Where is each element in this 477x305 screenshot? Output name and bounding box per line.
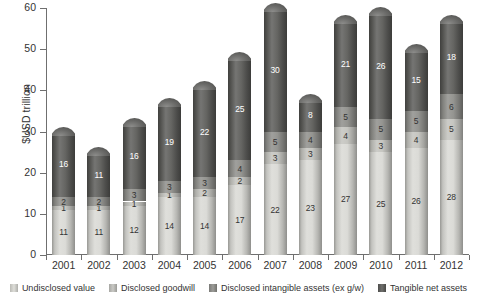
bar-segment: 25	[228, 57, 251, 160]
bar-2008: 23348	[299, 99, 322, 255]
bar-segment: 16	[52, 132, 75, 198]
bar-segment: 8	[299, 99, 322, 132]
bar-segment-fill	[123, 206, 146, 255]
bar-segment: 5	[369, 119, 392, 140]
bar-segment-fill	[158, 181, 181, 193]
bar-segment-fill	[440, 20, 463, 94]
bar-segment-fill	[334, 20, 357, 106]
bar-segment: 22	[264, 164, 287, 255]
y-axis-tick-label: 10	[24, 207, 36, 219]
y-axis-tick-label: 60	[24, 1, 36, 13]
bar-top-cap	[228, 52, 251, 61]
x-axis-label-2003: 2003	[114, 259, 154, 271]
legend-swatch-icon	[10, 284, 18, 292]
bar-segment-fill	[87, 197, 110, 205]
bar-segment-fill	[440, 140, 463, 255]
bar-segment-fill	[405, 148, 428, 255]
bar-segment-fill	[123, 202, 146, 206]
legend-swatch-icon	[378, 284, 386, 292]
bar-top-cap	[264, 3, 287, 12]
bar-segment: 21	[334, 20, 357, 106]
bar-segment-fill	[334, 107, 357, 128]
plot-area: 0102030405060 11121611121112131614131914…	[46, 8, 469, 255]
bar-segment-fill	[158, 103, 181, 181]
bar-segment: 4	[299, 132, 322, 148]
bar-segment-fill	[405, 132, 428, 148]
bar-segment-fill	[299, 99, 322, 132]
bar-2012: 285618	[440, 20, 463, 255]
bar-segment-fill	[405, 49, 428, 111]
bar-segment-fill	[87, 210, 110, 255]
bar-segment: 5	[264, 132, 287, 153]
legend-item-1[interactable]: Disclosed goodwill	[109, 283, 195, 293]
x-axis-label-2010: 2010	[361, 259, 401, 271]
bar-segment-fill	[369, 140, 392, 152]
bar-segment: 3	[299, 148, 322, 160]
bar-segment: 14	[193, 197, 216, 255]
stacked-bar-chart: $USD trillion 0102030405060 111216111211…	[0, 0, 477, 305]
bar-segment: 11	[52, 210, 75, 255]
bar-segment: 18	[440, 20, 463, 94]
bar-segment-fill	[52, 132, 75, 198]
legend-item-2[interactable]: Disclosed intangible assets (ex g/w)	[209, 283, 364, 293]
bar-segment: 25	[369, 152, 392, 255]
bar-top-cap	[405, 44, 428, 53]
bar-segment-fill	[440, 119, 463, 140]
legend-label: Disclosed goodwill	[121, 283, 195, 293]
bar-segment-fill	[193, 177, 216, 189]
x-axis-label-2001: 2001	[44, 259, 84, 271]
bar-segment: 11	[87, 210, 110, 255]
bar-segment-fill	[158, 193, 181, 197]
bar-segment: 11	[87, 152, 110, 197]
bar-2003: 121316	[123, 123, 146, 255]
bar-segment-fill	[228, 57, 251, 160]
y-axis-tick-label: 20	[24, 166, 36, 178]
bar-segment-fill	[87, 206, 110, 210]
bar-2004: 141319	[158, 103, 181, 255]
bar-segment-fill	[369, 12, 392, 119]
bar-segment-fill	[228, 185, 251, 255]
bar-segment: 3	[123, 189, 146, 201]
bar-segment-fill	[193, 197, 216, 255]
bar-segment-fill	[52, 210, 75, 255]
bar-segment: 26	[405, 148, 428, 255]
bar-segment: 19	[158, 103, 181, 181]
bar-segment-fill	[52, 206, 75, 210]
bar-segment: 17	[228, 185, 251, 255]
bar-segment: 2	[52, 197, 75, 205]
y-axis-tick-label: 50	[24, 42, 36, 54]
x-axis-label-2009: 2009	[326, 259, 366, 271]
legend-item-3[interactable]: Tangible net assets	[378, 283, 467, 293]
bar-segment: 4	[334, 127, 357, 143]
bar-top-cap	[299, 94, 322, 103]
legend-swatch-icon	[209, 284, 217, 292]
bar-segment: 6	[440, 94, 463, 119]
bar-segment-fill	[299, 148, 322, 160]
bar-segment-fill	[228, 160, 251, 176]
x-axis-label-2006: 2006	[220, 259, 260, 271]
bar-segment-fill	[193, 86, 216, 177]
bar-segment-fill	[193, 189, 216, 197]
bar-segment: 1	[52, 206, 75, 210]
bar-segment-fill	[52, 197, 75, 205]
x-axis-label-2008: 2008	[290, 259, 330, 271]
bar-segment-fill	[369, 152, 392, 255]
bar-segment: 23	[299, 160, 322, 255]
y-axis-tick-label: 40	[24, 83, 36, 95]
y-axis-tick-label: 30	[24, 125, 36, 137]
bar-segment-fill	[228, 177, 251, 185]
bar-segment-fill	[123, 123, 146, 189]
bar-segment: 2	[87, 197, 110, 205]
bar-segment: 5	[405, 111, 428, 132]
x-axis-label-2011: 2011	[396, 259, 436, 271]
bar-segment-fill	[87, 152, 110, 197]
bar-segment: 14	[158, 197, 181, 255]
bar-segment: 16	[123, 123, 146, 189]
bar-2010: 253526	[369, 12, 392, 255]
bar-segment: 30	[264, 8, 287, 132]
bar-top-cap	[369, 7, 392, 16]
legend-item-0[interactable]: Undisclosed value	[10, 283, 95, 293]
bar-segment: 3	[264, 152, 287, 164]
chart-legend: Undisclosed valueDisclosed goodwillDiscl…	[0, 283, 477, 293]
bar-segment-fill	[264, 8, 287, 132]
